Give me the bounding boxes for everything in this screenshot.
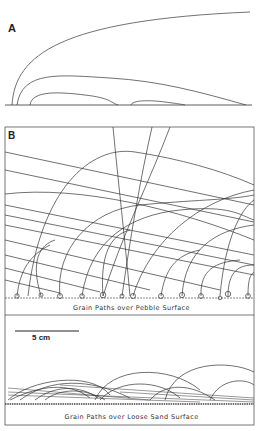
panel-b-label: B <box>8 130 15 141</box>
pebble-caption: Grain Paths over Pebble Surface <box>0 304 263 312</box>
scale-bar-label: 5 cm <box>32 333 50 342</box>
panel-a-trajectories <box>5 12 252 105</box>
sand-trajectories <box>8 365 254 402</box>
diagram-canvas <box>0 0 263 431</box>
sand-caption: Grain Paths over Loose Sand Surface <box>0 413 263 421</box>
pebble-trajectories <box>5 127 254 296</box>
panel-b-frame <box>5 127 254 425</box>
panel-a-label: A <box>8 22 16 34</box>
